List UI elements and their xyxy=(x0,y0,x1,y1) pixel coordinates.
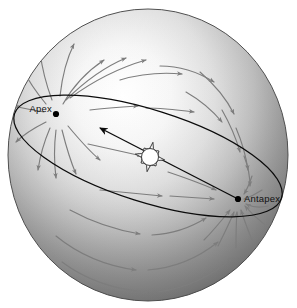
antapex-point xyxy=(235,196,241,202)
apex-label: Apex xyxy=(30,103,53,114)
apex-point xyxy=(53,111,59,117)
figure-root: Apex Antapex xyxy=(0,0,297,308)
sun-disc xyxy=(142,149,159,166)
celestial-sphere-diagram: Apex Antapex xyxy=(0,0,297,308)
antapex-label: Antapex xyxy=(244,193,280,204)
